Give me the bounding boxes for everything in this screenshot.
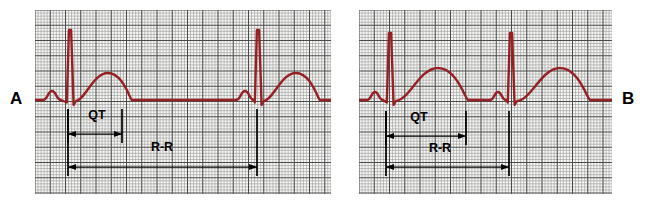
annotation-label-rr-interval: R-R [429,141,451,155]
ecg-figure: A B QTR-R QTR-R [0,0,651,205]
ecg-panel-a: QTR-R [35,10,331,194]
panel-label-a: A [10,90,22,107]
ecg-plot-b: QTR-R [359,10,612,194]
annotation-label-rr-interval: R-R [151,140,173,154]
ecg-panel-b: QTR-R [359,10,612,194]
annotation-label-qt-interval: QT [88,108,106,122]
ecg-plot-a: QTR-R [35,10,331,194]
annotation-label-qt-interval: QT [410,110,428,124]
panel-label-b: B [622,90,634,107]
